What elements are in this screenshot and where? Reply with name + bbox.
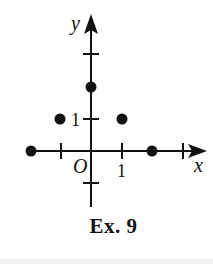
x-axis-label: x [193, 154, 203, 176]
point-0-2 [86, 82, 97, 93]
point-1-1 [117, 114, 128, 125]
y-tick-label-1: 1 [71, 110, 80, 130]
point-neg2-0 [26, 146, 37, 157]
origin-label: O [73, 155, 87, 177]
bottom-band [0, 259, 213, 264]
point-neg1-1 [55, 114, 66, 125]
point-2-0 [147, 146, 158, 157]
y-axis-label: y [69, 12, 80, 35]
x-tick-label-1: 1 [117, 161, 126, 181]
figure-caption: Ex. 9 [0, 214, 213, 239]
